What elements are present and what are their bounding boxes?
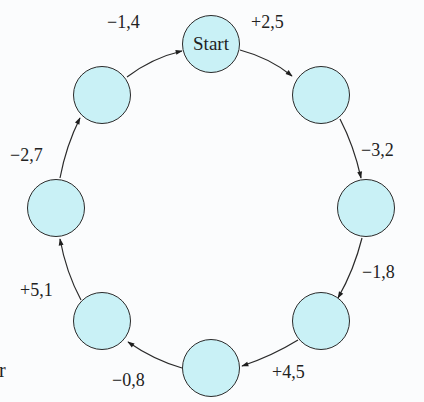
node-2 xyxy=(337,179,395,237)
node-3 xyxy=(292,292,350,350)
edge-label-n7-start: −1,4 xyxy=(107,12,140,32)
edge-n6-to-n7 xyxy=(60,118,80,178)
cycle-diagram: Start +2,5 −3,2 −1,8 +4,5 −0,8 +5,1 −2,7… xyxy=(0,0,424,402)
node-start-label: Start xyxy=(193,33,229,55)
node-1 xyxy=(292,66,350,124)
edge-n2-to-n3 xyxy=(338,238,362,298)
edge-label-start-n1: +2,5 xyxy=(251,12,284,32)
edge-start-to-n1 xyxy=(240,50,292,76)
node-4 xyxy=(182,339,240,397)
edge-n4-to-n5 xyxy=(128,342,182,368)
edge-n5-to-n6 xyxy=(60,239,81,300)
node-6 xyxy=(27,179,85,237)
cutoff-text-fragment: r xyxy=(0,360,6,380)
edge-n1-to-n2 xyxy=(340,119,361,178)
edge-label-n1-n2: −3,2 xyxy=(361,140,394,160)
node-7 xyxy=(73,66,131,124)
node-start: Start xyxy=(182,15,240,73)
edge-label-n4-n5: −0,8 xyxy=(112,370,145,390)
edge-label-n2-n3: −1,8 xyxy=(362,262,395,282)
edge-label-n3-n4: +4,5 xyxy=(272,362,305,382)
edge-label-n6-n7: −2,7 xyxy=(10,145,43,165)
edge-n7-to-start xyxy=(127,51,182,77)
node-5 xyxy=(73,292,131,350)
edge-label-n5-n6: +5,1 xyxy=(20,280,53,300)
